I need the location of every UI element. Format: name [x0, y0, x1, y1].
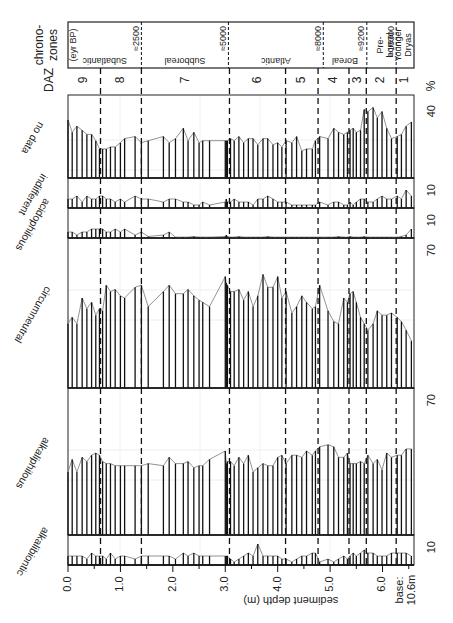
base-label: 10.6m [405, 575, 417, 606]
panel-alkaliphilous: 70alkaliphilous [14, 388, 437, 535]
depth-axis: 0.01.02.03.04.05.06.0sediment depth (m)b… [61, 565, 417, 607]
chrono-name: Younger [393, 28, 403, 61]
daz-label: 8 [113, 76, 127, 83]
depth-axis-title: sediment depth (m) [243, 595, 338, 607]
series-name: alkalibiontic [15, 525, 53, 578]
depth-tick-label: 6.0 [375, 576, 387, 591]
chrono-header: chrono- [32, 25, 46, 66]
depth-tick-label: 1.0 [113, 576, 125, 591]
depth-tick-label: 2.0 [166, 576, 178, 591]
chrono-unit: (eyr BP) [68, 28, 78, 61]
chronozones: ≈2500Subatlantic≈5000Subboreal≈8000Atlan… [68, 22, 413, 68]
depth-tick-label: 5.0 [323, 576, 335, 591]
chrono-name: Pre- [375, 36, 385, 53]
chrono-age: ≈8000 [313, 26, 323, 51]
chart-canvas: 40no data10indifferent10acidophilous70ci… [0, 0, 453, 623]
series-name: no data [19, 120, 47, 156]
chrono-name: Boreal [332, 56, 358, 66]
series-max-label: 70 [425, 244, 437, 256]
daz-label: 5 [294, 76, 308, 83]
base-label: base: [393, 577, 405, 604]
series-max-label: 40 [425, 105, 437, 117]
daz-label: 7 [178, 76, 192, 83]
depth-tick-label: 0.0 [61, 576, 73, 591]
chrono-name: Subboreal [164, 56, 205, 66]
chrono-header: zones [46, 29, 60, 61]
panel-indifferent: 10indifferent [17, 172, 437, 218]
daz-header: DAZ [42, 68, 56, 92]
series-max-label: 10 [425, 541, 437, 553]
daz-label: 1 [397, 76, 411, 83]
chrono-age: ≈2500 [131, 26, 141, 51]
series-max-label: 10 [425, 184, 437, 196]
series-max-label: 70 [425, 394, 437, 406]
series-name: circumneutral [13, 285, 55, 346]
daz-label: 2 [373, 76, 387, 83]
unit-label: % [424, 80, 438, 91]
daz-label: 6 [250, 76, 264, 83]
panel-circumneutral: 70circumneutral [13, 238, 437, 388]
panel-no-data: 40no data [19, 95, 436, 178]
series-max-label: 10 [425, 214, 437, 226]
chrono-name: Dryas [403, 33, 413, 57]
depth-tick-label: 4.0 [271, 576, 283, 591]
daz-label: 9 [76, 76, 90, 83]
chrono-age: ≈9200 [356, 26, 366, 51]
chrono-age: ≈5000 [218, 26, 228, 51]
daz-label: 4 [326, 76, 340, 83]
diatom-ph-diagram: 40no data10indifferent10acidophilous70ci… [0, 0, 453, 623]
series-name: alkaliphilous [14, 436, 53, 492]
chrono-name: Subatlantic [82, 56, 127, 66]
depth-tick-label: 3.0 [218, 576, 230, 591]
chrono-name: Atlantic [261, 56, 291, 66]
daz-label: 3 [350, 76, 364, 83]
